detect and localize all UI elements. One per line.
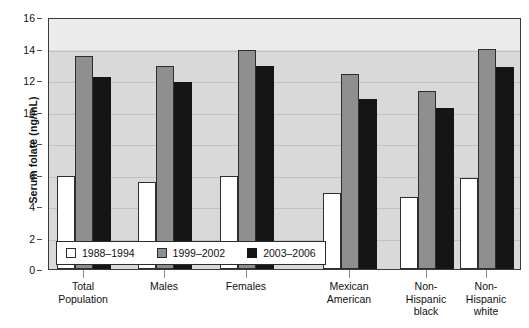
legend-entry: 1999–2002	[157, 247, 226, 259]
serum-folate-bar-chart: Serum folate (ng/mL) 0246810121416 1988–…	[0, 0, 529, 328]
bar	[75, 56, 93, 269]
legend-label: 2003–2006	[263, 247, 316, 259]
x-axis-label: Non- Hispanic white	[446, 280, 526, 318]
y-axis-tick-mark	[37, 50, 42, 51]
bar	[418, 91, 436, 269]
legend-label: 1988–1994	[82, 247, 135, 259]
x-axis-label-group: Total PopulationMalesFemalesMexican Amer…	[0, 280, 529, 328]
x-axis-tick-mark	[246, 270, 247, 278]
bar	[478, 49, 496, 270]
y-axis-tick-label: 16	[23, 13, 35, 23]
y-axis-tick-mark	[37, 18, 42, 19]
y-axis-tick-label: 12	[23, 76, 35, 86]
y-axis-tick-mark	[37, 239, 42, 240]
x-axis-tick-mark	[349, 270, 350, 278]
legend-entry: 2003–2006	[247, 247, 316, 259]
legend-swatch-icon	[157, 248, 167, 258]
y-axis-tick-label: 6	[29, 171, 35, 181]
bar	[460, 178, 478, 269]
bar	[436, 108, 454, 269]
gridline	[49, 51, 520, 52]
x-axis-label: Total Population	[43, 280, 123, 305]
legend-label: 1999–2002	[173, 247, 226, 259]
gridline	[49, 82, 520, 83]
y-axis-tick-label: 10	[23, 108, 35, 118]
plot-area: 1988–19941999–20022003–2006	[48, 18, 521, 270]
y-axis-tick-mark	[37, 81, 42, 82]
y-axis-tick-label: 14	[23, 45, 35, 55]
x-axis-tick-mark	[164, 270, 165, 278]
bar	[341, 74, 359, 269]
y-axis-tick-label: 8	[29, 139, 35, 149]
bar	[256, 66, 274, 269]
legend-entry: 1988–1994	[66, 247, 135, 259]
y-axis-tick-mark	[37, 176, 42, 177]
x-axis-tick-mark	[83, 270, 84, 278]
y-axis-tick-label: 2	[29, 234, 35, 244]
bar	[359, 99, 377, 269]
y-axis-tick-mark	[37, 207, 42, 208]
chart-legend: 1988–19941999–20022003–2006	[56, 241, 326, 265]
y-axis-tick-label: 4	[29, 202, 35, 212]
y-axis-tick-mark	[37, 113, 42, 114]
plot-top-band	[49, 19, 520, 50]
legend-swatch-icon	[247, 248, 257, 258]
y-axis-tick-mark	[37, 144, 42, 145]
bar	[323, 193, 341, 269]
x-axis-tick-group	[0, 270, 529, 280]
bar	[238, 50, 256, 269]
x-axis-label: Males	[124, 280, 204, 293]
legend-swatch-icon	[66, 248, 76, 258]
x-axis-tick-mark	[486, 270, 487, 278]
bar	[400, 197, 418, 269]
bar	[156, 66, 174, 269]
x-axis-label: Mexican American	[309, 280, 389, 305]
bar	[496, 67, 514, 269]
x-axis-tick-mark	[426, 270, 427, 278]
x-axis-label: Females	[206, 280, 286, 293]
